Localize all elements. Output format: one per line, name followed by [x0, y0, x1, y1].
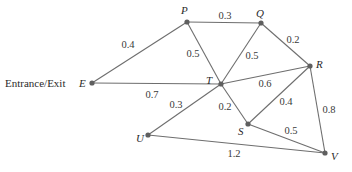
edge-E-P — [92, 22, 187, 83]
node-labels: Entrance/Exit E P Q R T S U V — [5, 4, 339, 162]
entrance-exit-label: Entrance/Exit — [5, 77, 65, 89]
node-P — [184, 19, 189, 24]
edge-weights: 0.4 0.7 0.3 0.5 0.5 0.2 0.6 0.3 0.2 0.4 … — [121, 10, 335, 159]
label-R: R — [315, 58, 323, 70]
node-T — [218, 81, 223, 86]
label-E: E — [78, 77, 86, 89]
weight-T-R: 0.6 — [258, 78, 271, 89]
weight-E-T: 0.7 — [145, 89, 158, 100]
node-S — [245, 121, 250, 126]
label-T: T — [206, 74, 213, 86]
weight-Q-R: 0.2 — [286, 34, 299, 45]
weight-P-Q: 0.3 — [218, 10, 231, 21]
node-E — [89, 80, 94, 85]
weight-U-V: 1.2 — [227, 148, 240, 159]
label-V: V — [331, 150, 339, 162]
label-Q: Q — [256, 7, 264, 19]
node-R — [307, 63, 312, 68]
weight-S-V: 0.5 — [284, 125, 297, 136]
weight-R-V: 0.8 — [322, 104, 335, 115]
node-U — [145, 132, 150, 137]
weight-R-S: 0.4 — [279, 96, 293, 107]
weight-T-S: 0.2 — [218, 101, 231, 112]
edge-P-Q — [187, 22, 261, 23]
edge-T-U — [148, 84, 221, 135]
weight-Q-T: 0.5 — [245, 50, 258, 61]
weight-P-T: 0.5 — [186, 48, 199, 59]
label-P: P — [180, 4, 188, 16]
label-S: S — [238, 125, 244, 137]
node-V — [322, 150, 327, 155]
network-graph: 0.4 0.7 0.3 0.5 0.5 0.2 0.6 0.3 0.2 0.4 … — [0, 0, 352, 172]
weight-T-U: 0.3 — [169, 99, 182, 110]
edge-E-T — [92, 83, 221, 84]
weight-E-P: 0.4 — [121, 39, 135, 50]
label-U: U — [136, 132, 145, 144]
node-Q — [258, 20, 263, 25]
edge-R-S — [248, 66, 310, 124]
